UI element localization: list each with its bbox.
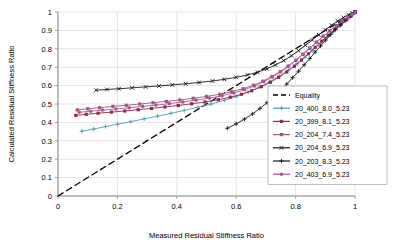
data-marker xyxy=(114,107,118,111)
data-marker xyxy=(243,88,247,92)
data-marker xyxy=(353,10,357,14)
y-tick-label: 0.2 xyxy=(42,155,52,164)
data-marker xyxy=(111,105,114,108)
data-marker xyxy=(220,94,224,98)
data-marker xyxy=(269,81,272,84)
y-tick-label: 0.6 xyxy=(42,81,52,90)
legend-label: Equality xyxy=(295,92,320,100)
legend-label: 20_403_6.9_5.23 xyxy=(295,171,350,179)
legend: Equality20_400_8.0_5.2320_399_8.1_5.2320… xyxy=(268,86,387,184)
data-marker xyxy=(346,15,350,19)
data-marker xyxy=(154,103,158,107)
data-marker xyxy=(127,106,131,110)
data-marker xyxy=(280,172,284,176)
data-marker xyxy=(350,12,354,16)
data-marker xyxy=(229,96,232,99)
y-tick-label: 0.3 xyxy=(42,137,52,146)
data-marker xyxy=(110,110,113,113)
data-marker xyxy=(203,100,206,103)
data-marker xyxy=(250,89,253,92)
data-marker xyxy=(253,84,257,88)
data-marker xyxy=(205,95,208,98)
data-marker xyxy=(262,80,266,84)
data-marker xyxy=(340,19,344,23)
legend-label: 20_400_8.0_5.23 xyxy=(295,105,350,113)
data-marker xyxy=(328,29,332,33)
data-marker xyxy=(101,108,105,112)
y-tick-label: 0.9 xyxy=(42,26,52,35)
data-marker xyxy=(150,107,153,110)
data-marker xyxy=(138,102,141,105)
data-marker xyxy=(178,98,181,101)
y-tick-label: 0.1 xyxy=(42,173,52,182)
data-marker xyxy=(208,96,212,100)
data-marker xyxy=(240,93,243,96)
data-marker xyxy=(165,100,168,103)
data-marker xyxy=(168,102,172,106)
y-tick-label: 0.7 xyxy=(42,63,52,72)
x-axis-title: Measured Residual Stiffness Ratio xyxy=(149,231,264,240)
data-marker xyxy=(285,70,288,73)
data-marker xyxy=(271,75,275,79)
x-tick-label: 0.4 xyxy=(172,202,182,211)
x-tick-label: 0.2 xyxy=(112,202,122,211)
legend-label: 20_203_8.3_5.23 xyxy=(295,158,350,166)
y-tick-label: 0 xyxy=(48,192,52,201)
data-marker xyxy=(301,53,305,57)
data-marker xyxy=(279,70,283,74)
data-marker xyxy=(287,64,291,68)
data-marker xyxy=(74,114,77,117)
data-marker xyxy=(280,133,283,136)
data-marker xyxy=(137,108,140,111)
data-marker xyxy=(280,120,283,123)
data-marker xyxy=(78,110,82,114)
x-tick-label: 1 xyxy=(353,202,357,211)
y-tick-label: 1 xyxy=(48,8,52,17)
y-axis-title: Calculated Residual Stiffness Ratio xyxy=(7,45,16,162)
data-marker xyxy=(293,64,296,67)
data-marker xyxy=(181,100,185,104)
data-marker xyxy=(151,101,154,104)
y-tick-label: 0.4 xyxy=(42,118,52,127)
x-tick-label: 0.6 xyxy=(231,202,241,211)
x-tick-label: 0.8 xyxy=(290,202,300,211)
y-tick-label: 0.5 xyxy=(42,100,52,109)
data-marker xyxy=(98,106,101,109)
data-marker xyxy=(190,102,193,105)
data-marker xyxy=(277,76,280,79)
data-marker xyxy=(86,107,89,110)
legend-label: 20_204_7.4_5.23 xyxy=(295,131,350,139)
series-20_204_6.9_5.23 xyxy=(94,10,357,92)
data-marker xyxy=(320,39,323,42)
data-marker xyxy=(260,85,263,88)
data-marker xyxy=(314,46,317,49)
data-marker xyxy=(85,113,88,116)
data-marker xyxy=(194,98,198,102)
legend-label: 20_204_6.9_5.23 xyxy=(295,144,350,152)
data-marker xyxy=(192,97,195,100)
data-marker xyxy=(177,104,180,107)
x-tick-label: 0 xyxy=(56,202,60,211)
data-marker xyxy=(308,46,312,50)
data-marker xyxy=(163,105,166,108)
chart-container: 00.10.20.30.40.50.60.70.80.9100.20.40.60… xyxy=(0,0,399,245)
data-marker xyxy=(294,59,298,63)
data-marker xyxy=(123,109,126,112)
data-marker xyxy=(125,104,128,107)
data-marker xyxy=(232,91,236,95)
y-tick-label: 0.8 xyxy=(42,45,52,54)
data-marker xyxy=(96,112,99,115)
legend-label: 20_399_8.1_5.23 xyxy=(295,118,350,126)
data-marker xyxy=(315,40,319,44)
data-marker xyxy=(307,52,310,55)
data-marker xyxy=(89,109,93,113)
data-marker xyxy=(141,105,145,109)
data-marker xyxy=(321,34,325,38)
data-marker xyxy=(300,58,303,61)
data-marker xyxy=(334,24,338,28)
data-marker xyxy=(217,98,220,101)
residual-stiffness-scatter-chart: 00.10.20.30.40.50.60.70.80.9100.20.40.60… xyxy=(0,0,399,245)
